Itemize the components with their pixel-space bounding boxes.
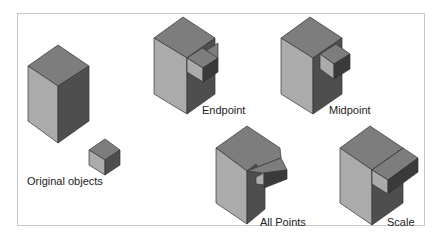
- label-endpoint: Endpoint: [202, 104, 245, 116]
- diagram-canvas: [0, 0, 439, 243]
- endpoint-result: [154, 17, 218, 114]
- label-original-objects: Original objects: [27, 175, 103, 187]
- label-all-points: All Points: [260, 216, 306, 228]
- original-tall-box: [28, 45, 89, 143]
- scale-result: [340, 126, 418, 225]
- label-scale: Scale: [387, 216, 415, 228]
- label-midpoint: Midpoint: [329, 104, 371, 116]
- original-small-cube: [89, 139, 120, 175]
- midpoint-result: [281, 17, 350, 114]
- all-points-result: [216, 126, 287, 224]
